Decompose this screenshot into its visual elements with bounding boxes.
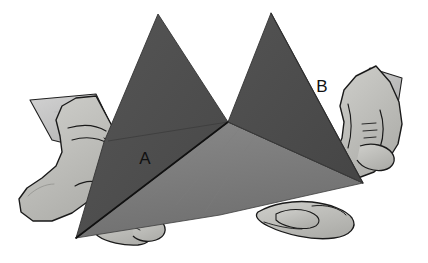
figure-illustration: A B	[0, 0, 428, 263]
label-b: B	[316, 77, 327, 96]
label-a: A	[139, 149, 151, 168]
paper-folding-figure: A B	[0, 0, 428, 263]
